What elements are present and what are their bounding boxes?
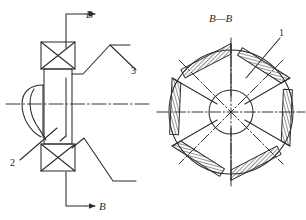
callout-leader-3 (72, 45, 136, 74)
callout-leader-lower (72, 138, 136, 181)
shaft-inner-line (60, 78, 66, 141)
shaft-body (44, 69, 72, 144)
section-arrow-bottom (66, 172, 95, 206)
section-arrow-top-label: B (86, 8, 93, 20)
upper-bearing-symbol (41, 42, 75, 69)
lower-bearing-symbol (41, 144, 75, 171)
callout-label-1: 1 (279, 27, 284, 38)
blade-profile (22, 85, 46, 140)
blade-vane (231, 128, 281, 180)
drawing-sheet: B B 3 2 B—B 1 (0, 0, 306, 220)
section-arrow-bottom-label: B (99, 200, 106, 212)
callout-label-3: 3 (131, 65, 136, 76)
section-view-title: B—B (209, 12, 233, 24)
callout-label-2: 2 (10, 157, 15, 168)
technical-drawing-canvas: B B 3 2 B—B 1 (0, 0, 306, 220)
blade-vane (181, 44, 231, 96)
